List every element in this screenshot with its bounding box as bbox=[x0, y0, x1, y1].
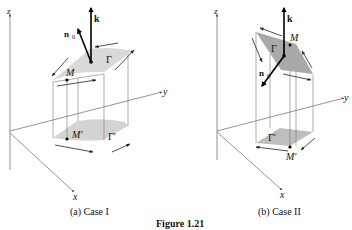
label-gamma-prime: Γ′ bbox=[268, 132, 276, 143]
figure-title: Figure 1.21 bbox=[156, 218, 204, 229]
label-n0: n bbox=[64, 29, 69, 39]
label-gamma: Γ bbox=[271, 43, 277, 54]
label-M: M bbox=[289, 32, 299, 43]
caption-case-2: (b) Case II bbox=[258, 206, 301, 217]
projection-gamma-prime bbox=[256, 128, 313, 146]
panel-b: z y x k n 0 M Γ M′ Γ′ bbox=[213, 6, 349, 200]
label-gamma-prime: Γ′ bbox=[108, 131, 116, 142]
label-n0: n bbox=[259, 68, 264, 78]
label-x: x bbox=[72, 191, 78, 202]
label-y: y bbox=[343, 92, 349, 103]
caption-case-1: (a) Case I bbox=[70, 206, 109, 217]
label-gamma: Γ bbox=[106, 54, 112, 65]
label-z: z bbox=[6, 6, 11, 16]
point-M bbox=[289, 44, 292, 47]
label-k: k bbox=[287, 13, 293, 24]
label-M-prime: M′ bbox=[71, 129, 83, 140]
x-axis bbox=[10, 133, 74, 192]
label-x: x bbox=[279, 189, 285, 200]
point-M-prime bbox=[65, 137, 68, 140]
point-M-prime bbox=[288, 145, 291, 148]
label-z: z bbox=[213, 6, 218, 16]
point-M bbox=[65, 78, 68, 81]
label-y: y bbox=[162, 86, 168, 97]
label-n0-subscript: 0 bbox=[267, 73, 270, 79]
figure-canvas: z y x k n 0 M Γ M′ Γ′ bbox=[0, 0, 352, 230]
panel-a: z y x k n 0 M Γ M′ Γ′ bbox=[6, 6, 168, 202]
label-M: M bbox=[65, 67, 75, 78]
label-M-prime: M′ bbox=[285, 151, 297, 162]
label-k: k bbox=[94, 13, 100, 24]
label-n0-subscript: 0 bbox=[72, 34, 75, 40]
